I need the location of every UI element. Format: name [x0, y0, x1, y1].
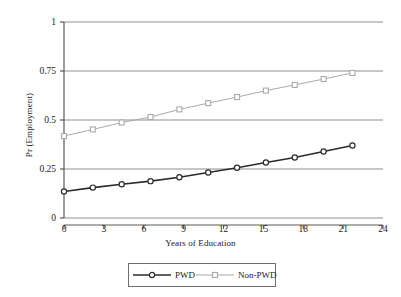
data-point-marker-non-pwd: [119, 120, 124, 125]
legend-item-pwd[interactable]: PWD: [132, 269, 195, 281]
data-point-marker-non-pwd: [148, 115, 153, 120]
data-point-marker-non-pwd: [206, 101, 211, 106]
x-axis-tick-labels: 03691215182124: [0, 224, 401, 238]
data-point-marker-pwd: [206, 170, 211, 175]
y-axis-tick-label: 0: [30, 213, 56, 223]
data-point-marker-pwd: [263, 160, 268, 165]
x-axis-title: Years of Education: [0, 238, 401, 248]
data-point-marker-pwd: [148, 179, 153, 184]
data-point-marker-pwd: [177, 175, 182, 180]
data-point-marker-pwd: [292, 155, 297, 160]
plot-area: [0, 0, 401, 297]
x-axis-tick-label: 0: [51, 224, 77, 235]
x-axis-tick-label: 12: [211, 224, 237, 235]
data-point-marker-pwd: [234, 165, 239, 170]
legend: PWDNon-PWD: [128, 263, 276, 287]
data-point-marker-pwd: [321, 149, 326, 154]
y-axis-tick-label: 0.5: [30, 115, 56, 125]
x-axis-tick-label: 6: [131, 224, 157, 235]
x-axis-tick-label: 3: [91, 224, 117, 235]
legend-swatch-circle-icon: [132, 269, 172, 281]
data-point-marker-non-pwd: [263, 88, 268, 93]
x-axis-tick-label: 9: [171, 224, 197, 235]
data-point-marker-pwd: [61, 189, 66, 194]
data-point-marker-non-pwd: [90, 127, 95, 132]
x-axis-tick-label: 21: [330, 224, 356, 235]
data-point-marker-non-pwd: [292, 82, 297, 87]
data-point-marker-non-pwd: [177, 107, 182, 112]
data-point-marker-pwd: [350, 143, 355, 148]
data-point-marker-non-pwd: [321, 77, 326, 82]
x-axis-tick-label: 15: [250, 224, 276, 235]
x-axis-tick-label: 24: [370, 224, 396, 235]
data-point-marker-non-pwd: [350, 70, 355, 75]
legend-label: Non-PWD: [238, 270, 277, 280]
data-point-marker-non-pwd: [62, 134, 67, 139]
data-point-marker-pwd: [119, 182, 124, 187]
data-point-marker-non-pwd: [235, 95, 240, 100]
legend-swatch-square-icon: [195, 269, 235, 281]
chart-figure: Pr (Employment) 00.250.50.751 0369121518…: [0, 0, 401, 297]
data-point-marker-pwd: [90, 185, 95, 190]
y-axis-tick-labels: 00.250.50.751: [28, 0, 56, 297]
legend-item-non-pwd[interactable]: Non-PWD: [195, 269, 277, 281]
y-axis-tick-label: 0.25: [30, 164, 56, 174]
y-axis-tick-label: 0.75: [30, 66, 56, 76]
legend-label: PWD: [175, 270, 195, 280]
y-axis-tick-label: 1: [30, 17, 56, 27]
x-axis-tick-label: 18: [290, 224, 316, 235]
